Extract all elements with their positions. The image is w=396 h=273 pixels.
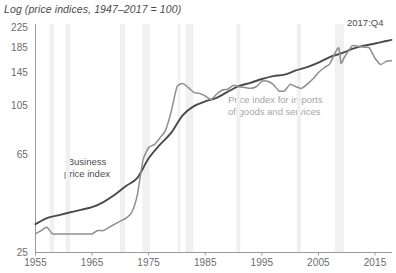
recession-band (142, 24, 149, 253)
recession-band (335, 24, 344, 253)
x-axis-tick-label: 1975 (129, 257, 169, 268)
plot-area (0, 0, 396, 273)
recession-band (185, 24, 193, 253)
y-axis-tick-label: 65 (2, 149, 28, 160)
recession-band (178, 24, 181, 253)
x-axis-tick-label: 2005 (298, 257, 338, 268)
recession-bands (50, 24, 344, 253)
y-axis-tick-label: 225 (2, 22, 28, 33)
y-axis-tick-label: 105 (2, 100, 28, 111)
x-axis-tick-label: 1955 (16, 257, 56, 268)
x-axis-tick-label: 2015 (355, 257, 395, 268)
recession-band (120, 24, 125, 253)
recession-band (65, 24, 70, 253)
y-axis-tick-label: 185 (2, 42, 28, 53)
x-axis-tick-label: 1985 (185, 257, 225, 268)
chart-container: Log (price indices, 1947–2017 = 100) 201… (0, 0, 396, 273)
recession-band (50, 24, 55, 253)
x-axis-tick-label: 1965 (72, 257, 112, 268)
x-axis-tick-label: 1995 (242, 257, 282, 268)
y-axis-tick-label: 145 (2, 67, 28, 78)
recession-band (236, 24, 240, 253)
recession-band (297, 24, 301, 253)
